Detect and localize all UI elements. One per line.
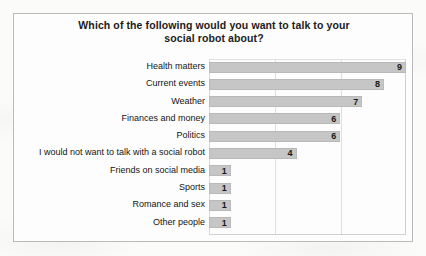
bar-row: Weather7 [14, 94, 414, 111]
bar-value-label: 4 [288, 147, 293, 159]
bar-row: Other people1 [14, 215, 414, 232]
bar-row: Friends on social media1 [14, 163, 414, 180]
bar-row: Health matters9 [14, 59, 414, 76]
bar-value-label: 6 [331, 130, 336, 142]
bar-value-label: 9 [397, 61, 402, 73]
bar-category-label: Politics [176, 128, 205, 145]
bar: 4 [209, 148, 297, 159]
chart-frame: Which of the following would you want to… [13, 13, 413, 242]
bar: 9 [209, 62, 406, 73]
bar: 1 [209, 183, 231, 194]
bar-category-label: Finances and money [121, 111, 205, 128]
bar-value-label: 1 [222, 165, 227, 177]
bar-value-label: 1 [222, 217, 227, 229]
bar-category-label: Friends on social media [110, 163, 205, 180]
bar-wrap: 9 [209, 62, 406, 73]
bar: 6 [209, 131, 340, 142]
bar-category-label: Romance and sex [132, 197, 205, 214]
bar-value-label: 1 [222, 182, 227, 194]
bar-wrap: 1 [209, 217, 231, 228]
bar: 1 [209, 165, 231, 176]
bar-wrap: 1 [209, 165, 231, 176]
page-background: Which of the following would you want to… [0, 0, 426, 256]
bar-wrap: 1 [209, 183, 231, 194]
bar-wrap: 7 [209, 96, 362, 107]
bar-wrap: 6 [209, 113, 340, 124]
bar-category-label: I would not want to talk with a social r… [39, 145, 205, 162]
bar: 1 [209, 217, 231, 228]
bar-category-label: Health matters [146, 59, 205, 76]
bar-row: Finances and money6 [14, 111, 414, 128]
chart-title-line-2: social robot about? [164, 32, 263, 44]
chart-title: Which of the following would you want to… [34, 19, 394, 45]
bar-value-label: 8 [375, 78, 380, 90]
bar: 1 [209, 200, 231, 211]
bar-category-label: Sports [179, 180, 205, 197]
bar-row: Current events8 [14, 76, 414, 93]
bar-wrap: 1 [209, 200, 231, 211]
bar: 6 [209, 113, 340, 124]
chart-title-line-1: Which of the following would you want to… [78, 19, 349, 31]
bar: 8 [209, 79, 384, 90]
bar-wrap: 4 [209, 148, 297, 159]
bar-wrap: 6 [209, 131, 340, 142]
bar-row: Politics6 [14, 128, 414, 145]
bar-value-label: 1 [222, 199, 227, 211]
bar-category-label: Other people [153, 215, 205, 232]
bar-row: I would not want to talk with a social r… [14, 145, 414, 162]
bar-category-label: Weather [171, 94, 205, 111]
bar-row: Sports1 [14, 180, 414, 197]
bar-wrap: 8 [209, 79, 384, 90]
bar-value-label: 7 [353, 96, 358, 108]
bar-category-label: Current events [146, 76, 205, 93]
bar-rows: Health matters9Current events8Weather7Fi… [14, 59, 414, 237]
bar-row: Romance and sex1 [14, 197, 414, 214]
bar: 7 [209, 96, 362, 107]
bar-value-label: 6 [331, 113, 336, 125]
